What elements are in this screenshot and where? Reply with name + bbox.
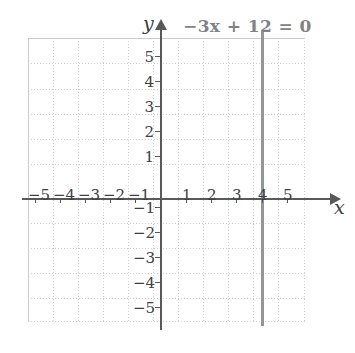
- x-tick-label: −5: [28, 186, 50, 204]
- y-tick-label: 1: [138, 148, 154, 166]
- y-tick-label: 4: [138, 73, 154, 91]
- gridline-vertical: [278, 38, 279, 322]
- y-tick-mark: [155, 282, 160, 283]
- y-tick-label: 5: [138, 48, 154, 66]
- y-tick-mark: [155, 131, 160, 132]
- y-axis-label: y: [143, 12, 154, 34]
- x-tick-label: −2: [103, 186, 125, 204]
- gridline-vertical: [78, 38, 79, 322]
- y-tick-mark: [155, 56, 160, 57]
- y-tick-label: −5: [133, 299, 155, 317]
- gridline-vertical: [53, 38, 54, 322]
- gridline-vertical: [228, 38, 229, 322]
- y-tick-mark: [155, 81, 160, 82]
- coordinate-plane-figure: y x −3x + 12 = 0 −5 −4 −3 −2 −1 1 2 3 4 …: [0, 0, 355, 353]
- x-tick-label: 2: [207, 186, 217, 204]
- x-tick-label: 5: [283, 186, 293, 204]
- x-axis-label: x: [334, 196, 345, 218]
- x-tick-label: 1: [182, 186, 192, 204]
- gridline-vertical: [28, 38, 29, 322]
- x-tick-label: 3: [232, 186, 242, 204]
- gridline-vertical: [253, 38, 254, 322]
- y-tick-label: −2: [133, 224, 155, 242]
- y-tick-label: 3: [138, 98, 154, 116]
- gridline-vertical: [103, 38, 104, 322]
- x-tick-label: −3: [78, 186, 100, 204]
- y-tick-mark: [155, 156, 160, 157]
- plot-line-x-equals-4: [261, 32, 264, 326]
- y-tick-label: −1: [133, 199, 155, 217]
- y-tick-mark: [155, 106, 160, 107]
- y-tick-label: −4: [133, 274, 155, 292]
- x-tick-label: −4: [53, 186, 75, 204]
- y-axis-line: [160, 28, 162, 330]
- y-tick-mark: [155, 257, 160, 258]
- y-tick-label: −3: [133, 249, 155, 267]
- y-tick-mark: [155, 207, 160, 208]
- y-axis-arrow-icon: [155, 19, 167, 30]
- gridline-vertical: [128, 38, 129, 322]
- y-tick-label: 2: [138, 123, 154, 141]
- x-tick-label: 4: [258, 186, 268, 204]
- y-tick-mark: [155, 307, 160, 308]
- gridline-vertical: [304, 38, 305, 322]
- gridline-vertical: [203, 38, 204, 322]
- y-tick-mark: [155, 232, 160, 233]
- gridline-vertical: [178, 38, 179, 322]
- equation-label: −3x + 12 = 0: [183, 16, 312, 36]
